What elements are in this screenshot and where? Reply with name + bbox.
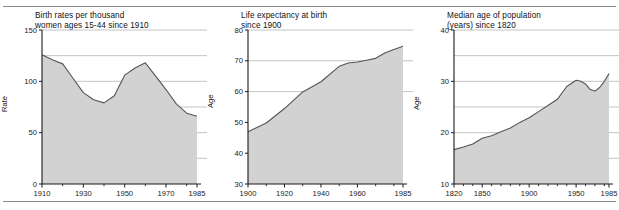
y-tick-label: 150 — [24, 26, 37, 35]
x-tick-label: 1960 — [349, 189, 366, 198]
area-fill — [248, 46, 403, 184]
y-tick-label: 20 — [441, 128, 449, 137]
charts-row: Birth rates per thousand women ages 15-4… — [0, 0, 619, 200]
y-tick-label: 50 — [235, 118, 243, 127]
y-tick-label: 40 — [235, 149, 243, 158]
y-tick-label: 60 — [235, 87, 243, 96]
bottom-divider-rule — [3, 201, 616, 202]
x-tick-label: 1920 — [276, 189, 293, 198]
y-tick-label: 100 — [24, 77, 37, 86]
x-tick-label: 1910 — [34, 189, 51, 198]
x-tick-label: 1950 — [116, 189, 133, 198]
y-tick-label: 80 — [235, 26, 243, 35]
x-tick-label: 1970 — [158, 189, 175, 198]
chart-plot-birth-rates: 05010015019101930195019701985 — [2, 8, 207, 200]
chart-plot-life-expectancy: 30405060708019001920194019601985 — [208, 8, 413, 200]
chart-panel-median-age: Median age of population (years) since 1… — [414, 8, 619, 200]
x-tick-label: 1940 — [312, 189, 329, 198]
figure-container: Birth rates per thousand women ages 15-4… — [0, 0, 619, 210]
y-tick-label: 50 — [29, 128, 37, 137]
x-tick-label: 1985 — [189, 189, 206, 198]
chart-panel-life-expectancy: Life expectancy at birth since 1900 Age … — [208, 8, 413, 200]
chart-plot-median-age: 1020304018201850190019501985 — [414, 8, 619, 200]
x-tick-label: 1950 — [568, 189, 585, 198]
y-tick-label: 30 — [235, 180, 243, 189]
y-tick-label: 30 — [441, 77, 449, 86]
x-tick-label: 1850 — [474, 189, 491, 198]
area-fill — [42, 55, 197, 184]
y-tick-label: 10 — [441, 180, 449, 189]
x-tick-label: 1820 — [446, 189, 463, 198]
y-tick-label: 40 — [441, 26, 449, 35]
x-tick-label: 1900 — [240, 189, 257, 198]
x-tick-label: 1985 — [395, 189, 412, 198]
y-tick-label: 70 — [235, 56, 243, 65]
chart-panel-birth-rates: Birth rates per thousand women ages 15-4… — [2, 8, 207, 200]
x-tick-label: 1985 — [601, 189, 618, 198]
y-tick-label: 0 — [33, 180, 37, 189]
x-tick-label: 1900 — [521, 189, 538, 198]
x-tick-label: 1930 — [75, 189, 92, 198]
area-fill — [454, 74, 609, 184]
